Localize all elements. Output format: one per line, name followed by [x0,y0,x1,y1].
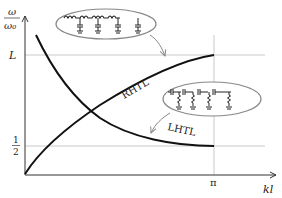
pi-tick-label: π [210,177,217,188]
lower-limit-label: 1 2 [12,135,20,157]
svg-text:ω: ω [8,6,16,17]
lhtl-label: LHTL [167,121,198,138]
svg-text:ω₀: ω₀ [4,20,16,31]
upper-limit-label: L [8,49,16,62]
svg-text:2: 2 [13,147,19,157]
y-axis-label: ω ω₀ [4,6,20,31]
rhtl-label: RHTL [120,76,151,100]
svg-text:1: 1 [13,135,19,145]
lhtl-circuit-inset [163,82,261,116]
rhtl-curve [25,55,214,174]
dispersion-diagram: ω ω₀ L 1 2 π kl RHTL LHTL [0,0,282,198]
x-axis-label: kl [263,183,274,196]
rhtl-pointer-arrow [150,35,165,56]
rhtl-circuit-inset [56,9,156,39]
